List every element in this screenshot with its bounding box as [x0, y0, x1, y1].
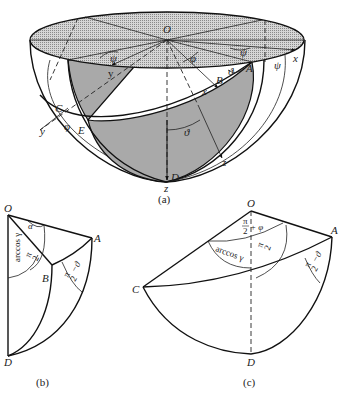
label-pi2-c: π 2 — [254, 241, 273, 252]
label-E: E — [77, 124, 85, 136]
svg-text:2: 2 — [30, 254, 41, 262]
label-B: B — [216, 74, 223, 86]
label-C: C — [55, 102, 63, 114]
label-x-upper: x — [292, 52, 298, 64]
label-D: D — [170, 171, 179, 183]
label-theta-center: ϑ — [184, 126, 190, 138]
shaded-wedge-left — [68, 60, 140, 120]
label-arccos-b: arccos γ — [12, 233, 22, 262]
svg-text:2: 2 — [309, 264, 320, 273]
diagram-canvas: O A B C E D x x y y z z ψ ψ ψ φ φ ϑ ϑ (a… — [0, 0, 342, 399]
label-phi-center: φ — [190, 52, 196, 64]
label-y-lower: y — [39, 125, 45, 137]
figure-c: O A C D π 2 + φ arccos γ π 2 π 2 −ϑ (c) — [132, 197, 338, 389]
label-arccos-c: arccos γ — [214, 243, 245, 262]
arc-BA — [52, 238, 92, 265]
svg-text:+ φ: + φ — [250, 222, 263, 232]
svg-text:−ϑ: −ϑ — [310, 249, 324, 264]
caption-a: (a) — [158, 193, 171, 206]
label-O-b: O — [4, 202, 12, 214]
svg-text:2: 2 — [262, 244, 273, 252]
arc-CD — [143, 287, 251, 354]
label-A-b: A — [93, 232, 101, 244]
label-O: O — [163, 23, 171, 35]
figure-b: O A B D α arccos γ π 2 π 2 −ϑ (b) — [3, 202, 101, 389]
label-pi2-b: π 2 — [23, 250, 41, 262]
svg-text:2: 2 — [68, 274, 79, 283]
label-z-lower: z — [221, 156, 227, 168]
label-A-c: A — [330, 224, 338, 236]
caption-c: (c) — [243, 376, 256, 389]
label-O-c: O — [247, 197, 255, 209]
svg-text:π: π — [243, 216, 248, 226]
figure-a: O A B C E D x x y y z z ψ ψ ψ φ φ ϑ ϑ (a… — [30, 12, 305, 206]
svg-text:2: 2 — [243, 226, 248, 236]
label-x-lower: x — [201, 85, 207, 97]
label-psi-right: ψ — [274, 59, 281, 71]
caption-b: (b) — [36, 376, 49, 389]
label-D-b: D — [3, 356, 12, 368]
label-pi2-theta-b: π 2 −ϑ — [61, 257, 86, 283]
label-C-c: C — [132, 283, 140, 295]
label-theta-A: ϑ — [228, 65, 234, 77]
label-phi-left: φ — [64, 120, 70, 132]
label-psi-left: ψ — [110, 52, 117, 64]
label-D-c: D — [246, 356, 255, 368]
label-psi-top-right: ψ — [240, 46, 247, 58]
label-pi2-plus-phi-c: π 2 + φ — [242, 216, 263, 236]
label-alpha-b: α — [28, 221, 33, 231]
svg-text:−ϑ: −ϑ — [69, 259, 83, 274]
label-A: A — [245, 62, 253, 74]
label-y-upper: y — [108, 67, 114, 79]
label-B-b: B — [42, 272, 49, 284]
